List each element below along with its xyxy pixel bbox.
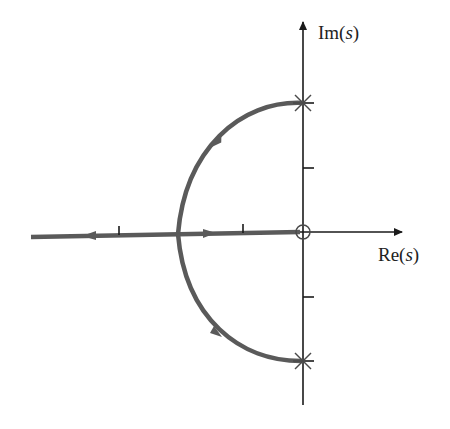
real-label-var: s [405, 244, 412, 265]
imag-label-var: s [345, 22, 352, 43]
real-label-prefix: Re( [378, 244, 405, 265]
real-label-suffix: ) [413, 244, 419, 265]
imag-axis-label: Im(s) [318, 22, 359, 44]
arrow-right-icon [203, 229, 216, 238]
real-axis-label: Re(s) [378, 244, 419, 266]
locus-upper-arc [178, 103, 303, 234]
imag-label-suffix: ) [353, 22, 359, 43]
locus-lower-arc [178, 234, 303, 361]
root-locus-diagram [0, 0, 450, 429]
locus-real-axis [31, 232, 300, 237]
arrow-left-icon [82, 231, 96, 240]
imag-label-prefix: Im( [318, 22, 345, 43]
